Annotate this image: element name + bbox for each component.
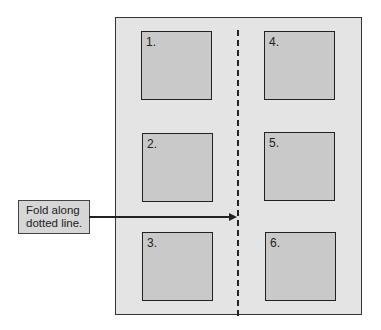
panel-number: 5. bbox=[269, 136, 279, 150]
panel-1: 1. bbox=[141, 31, 212, 100]
panel-number: 2. bbox=[147, 137, 157, 151]
callout-arrow-shaft bbox=[89, 216, 231, 218]
panel-number: 1. bbox=[146, 35, 156, 49]
panel-number: 4. bbox=[269, 35, 279, 49]
callout-line-1: Fold along bbox=[26, 204, 89, 217]
arrow-head-icon bbox=[229, 213, 237, 221]
panel-5: 5. bbox=[264, 132, 335, 201]
panel-4: 4. bbox=[264, 31, 335, 100]
panel-number: 3. bbox=[147, 236, 157, 250]
panel-3: 3. bbox=[142, 232, 213, 301]
panel-2: 2. bbox=[142, 133, 213, 202]
fold-callout: Fold along dotted line. bbox=[18, 200, 90, 234]
panel-6: 6. bbox=[265, 232, 336, 301]
fold-line bbox=[237, 30, 239, 316]
panel-number: 6. bbox=[270, 236, 280, 250]
callout-line-2: dotted line. bbox=[26, 217, 89, 230]
